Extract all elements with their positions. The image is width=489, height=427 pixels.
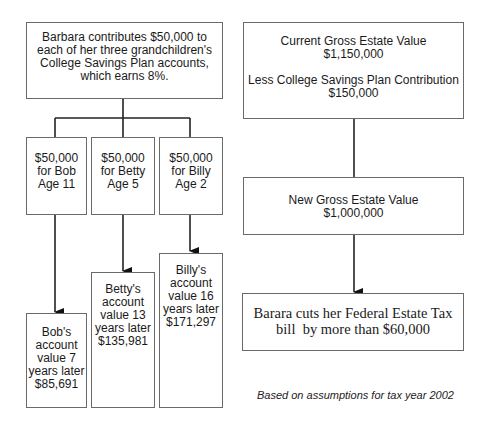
less-contribution-value: $150,000 <box>244 87 463 100</box>
result-box-billy: Billy's account value 16 years later $17… <box>159 253 223 408</box>
gift-box-betty: $50,000 for Betty Age 5 <box>91 137 155 215</box>
new-estate-value: $1,000,000 <box>244 207 463 220</box>
gift-box-bob: $50,000 for Bob Age 11 <box>26 137 87 215</box>
result-box-bob: Bob's account value 7 years later $85,69… <box>26 313 87 408</box>
result-value: $171,297 <box>160 316 222 329</box>
current-estate-box: Current Gross Estate Value $1,150,000 Le… <box>243 22 464 119</box>
gift-age: Age 2 <box>160 178 222 191</box>
result-value: $85,691 <box>27 378 86 391</box>
root-line-4: which earns 8%. <box>27 70 222 83</box>
gift-age: Age 11 <box>27 178 86 191</box>
gift-age: Age 5 <box>92 178 154 191</box>
tax-savings-line-2: bill by more than $60,000 <box>243 321 463 337</box>
result-box-betty: Betty's account value 13 years later $13… <box>91 272 155 408</box>
tax-savings-box: Barara cuts her Federal Estate Tax bill … <box>242 293 464 351</box>
gift-box-billy: $50,000 for Billy Age 2 <box>159 137 223 215</box>
result-value: $135,981 <box>92 335 154 348</box>
footnote: Based on assumptions for tax year 2002 <box>257 389 454 401</box>
current-estate-value: $1,150,000 <box>244 48 463 61</box>
new-estate-box: New Gross Estate Value $1,000,000 <box>243 177 464 235</box>
tax-savings-line-1: Barara cuts her Federal Estate Tax <box>243 305 463 321</box>
root-contribution-box: Barbara contributes $50,000 to each of h… <box>26 22 223 99</box>
